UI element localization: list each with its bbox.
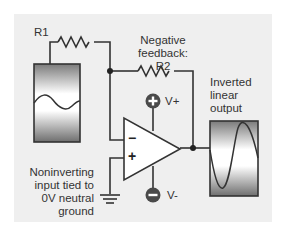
feedback-label-line1: Negative (130, 34, 196, 47)
wire-plus-to-ground (110, 158, 124, 194)
ground-icon (100, 195, 120, 203)
junction-node-input (107, 68, 113, 74)
output-signal-box (210, 121, 258, 196)
wire-input-to-r1 (50, 42, 58, 64)
r1-resistor (58, 37, 89, 47)
noninverting-line4: ground (14, 205, 94, 218)
output-label-line3: output (210, 102, 252, 115)
output-label: Inverted linear output (210, 76, 252, 115)
feedback-label: Negative feedback: R2 (130, 34, 196, 73)
wire-r2-to-output (174, 71, 193, 148)
noninverting-line2: input tied to (14, 179, 94, 192)
feedback-label-line2: feedback: R2 (130, 47, 196, 73)
vminus-label: V- (167, 189, 178, 202)
vplus-label: V+ (165, 95, 179, 108)
wire-r1-to-node (94, 42, 110, 71)
junction-node-output (190, 145, 196, 151)
noninverting-line1: Noninverting (14, 166, 94, 179)
vminus-icon (146, 188, 161, 203)
opamp-minus-sign: − (128, 132, 136, 145)
r1-label: R1 (34, 26, 49, 39)
output-label-line1: Inverted (210, 76, 252, 89)
noninverting-line3: 0V neutral (14, 192, 94, 205)
opamp-plus-sign: + (128, 150, 136, 163)
vplus-icon (146, 94, 161, 109)
noninverting-label: Noninverting input tied to 0V neutral gr… (14, 166, 94, 218)
input-signal-box (34, 64, 80, 142)
output-label-line2: linear (210, 89, 252, 102)
wire-node-to-minus (110, 71, 124, 140)
